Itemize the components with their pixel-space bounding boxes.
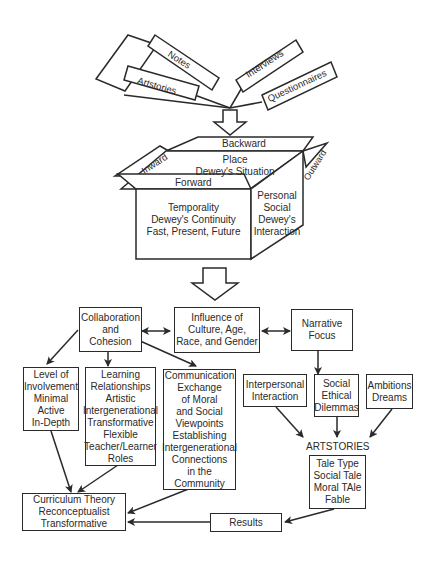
box-line: Tale Type: [316, 458, 359, 470]
box-line: in the: [187, 466, 211, 478]
cube-side-line: Interaction: [251, 226, 303, 238]
cube-front-line: Dewey's Continuity: [136, 214, 251, 226]
box-line: Culture, Age,: [188, 324, 246, 336]
box-line: Flexible: [103, 429, 137, 441]
box-line: Results: [229, 517, 262, 529]
box-line: Focus: [308, 330, 335, 342]
box-line: Artistic: [106, 393, 136, 405]
artstories-box: Tale Type Social Tale Moral TAle Fable: [309, 455, 366, 509]
box-line: of Moral: [181, 394, 217, 406]
box-line: Intergenerational: [162, 442, 237, 454]
box-line: Viewpoints: [175, 418, 223, 430]
box-line: Roles: [108, 453, 134, 465]
box-line: Relationships: [90, 381, 150, 393]
cube-side-face: Personal Social Dewey's Interaction: [251, 190, 303, 238]
box-line: Establishing: [173, 430, 227, 442]
box-line: Social Tale: [313, 470, 361, 482]
influence-box: Influence of Culture, Age, Race, and Gen…: [174, 307, 260, 353]
box-line: Dreams: [372, 392, 407, 404]
box-line: Social: [323, 378, 350, 390]
box-line: and Social: [176, 406, 223, 418]
box-line: Curriculum Theory: [33, 494, 115, 506]
box-line: Ambitions: [368, 380, 412, 392]
learning-relationships-box: Learning Relationships Artistic Intergen…: [85, 367, 156, 466]
box-line: Collaboration: [81, 312, 140, 324]
social-ethical-box: Social Ethical Dilemmas: [314, 374, 359, 417]
box-line: Fable: [325, 494, 350, 506]
box-line: Cohesion: [89, 336, 131, 348]
cube-side-line: Dewey's: [251, 214, 303, 226]
narrative-focus-box: Narrative Focus: [291, 309, 353, 351]
box-line: and: [102, 324, 119, 336]
box-line: Connections: [172, 454, 228, 466]
ambitions-dreams-box: Ambitions Dreams: [366, 374, 413, 409]
cube-front-face: Temporality Dewey's Continuity Fast, Pre…: [136, 202, 251, 238]
box-line: Transformative: [87, 417, 153, 429]
cube-backward-label: Backward: [222, 138, 266, 150]
box-line: Level of: [33, 369, 68, 381]
cube-front-line: Fast, Present, Future: [136, 226, 251, 238]
box-line: Transformative: [41, 518, 107, 530]
box-line: Moral TAle: [314, 482, 361, 494]
box-line: Race, and Gender: [176, 336, 258, 348]
box-line: Teacher/Learner: [84, 441, 157, 453]
box-line: Minimal: [34, 393, 68, 405]
box-line: Community: [174, 478, 225, 490]
box-line: In-Depth: [32, 417, 70, 429]
box-line: Influence of: [191, 312, 243, 324]
cube-side-line: Personal: [251, 190, 303, 202]
box-line: Learning: [101, 369, 140, 381]
cube-top-line: Place: [180, 154, 290, 166]
box-line: Communication: [165, 370, 234, 382]
box-line: Ethical: [321, 390, 351, 402]
box-line: Interaction: [252, 391, 299, 403]
artstories-heading: ARTSTORIES: [306, 441, 368, 453]
cube-front-line: Temporality: [136, 202, 251, 214]
interpersonal-box: Interpersonal Interaction: [243, 374, 307, 407]
down-arrow-middle: [192, 268, 238, 300]
communication-box: Communication Exchange of Moral and Soci…: [163, 369, 236, 490]
connector-questionnaires: [230, 102, 262, 108]
down-arrow-top: [214, 110, 246, 135]
box-line: Reconceptualist: [38, 506, 109, 518]
cube-side-line: Social: [251, 202, 303, 214]
box-line: Interpersonal: [246, 379, 304, 391]
box-line: Intergenerational: [83, 405, 158, 417]
box-line: Exchange: [177, 382, 221, 394]
curriculum-box: Curriculum Theory Reconceptualist Transf…: [22, 493, 126, 531]
box-line: Dilemmas: [314, 402, 358, 414]
involvement-box: Level of Involvement Minimal Active In-D…: [23, 367, 79, 431]
box-line: Involvement: [24, 381, 78, 393]
cube-top-face: Place Dewey's Situation: [180, 154, 290, 178]
collaboration-cohesion-box: Collaboration and Cohesion: [79, 307, 142, 352]
box-line: Active: [37, 405, 64, 417]
box-line: Narrative: [302, 318, 343, 330]
results-box: Results: [210, 513, 282, 532]
cube-forward-label: Forward: [175, 177, 212, 189]
